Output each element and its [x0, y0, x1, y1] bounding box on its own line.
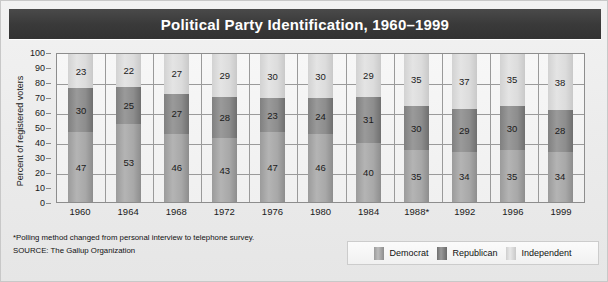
legend-item-democrat[interactable]: Democrat — [374, 247, 428, 260]
x-axis-tick-label: 1976 — [248, 204, 296, 220]
bar-segment-republican: 30 — [404, 106, 429, 150]
y-axis-tick-mark — [46, 203, 51, 204]
bar-segment-independent: 35 — [500, 54, 525, 106]
bar-category-1984: 293140 — [344, 54, 392, 202]
bar-category-1999: 382834 — [536, 54, 584, 202]
bar-value-label: 30 — [411, 123, 422, 134]
bar-value-label: 34 — [555, 171, 566, 182]
bar-value-label: 30 — [267, 71, 278, 82]
y-axis-tick-label: 60 — [35, 108, 45, 118]
bar-category-1972: 292843 — [201, 54, 249, 202]
y-axis-tick-mark — [46, 143, 51, 144]
bar-value-label: 23 — [76, 66, 87, 77]
bar-value-label: 23 — [267, 110, 278, 121]
y-axis-tick-mark — [46, 113, 51, 114]
bar-segment-republican: 23 — [260, 98, 285, 132]
stacked-bar: 272746 — [164, 54, 189, 202]
bar-value-label: 40 — [363, 167, 374, 178]
bar-value-label: 22 — [124, 65, 135, 76]
bar-segment-independent: 37 — [452, 54, 477, 109]
bar-segment-democrat: 34 — [548, 152, 573, 202]
bar-segment-democrat: 53 — [116, 124, 141, 202]
bar-category-1992: 372934 — [440, 54, 488, 202]
bar-value-label: 29 — [219, 70, 230, 81]
x-axis-tick-label: 1996 — [489, 204, 537, 220]
legend-item-independent[interactable]: Independent — [506, 247, 571, 260]
stacked-bar: 222553 — [116, 54, 141, 202]
y-axis-tick-mark — [46, 173, 51, 174]
bar-segment-republican: 30 — [68, 88, 93, 132]
x-axis-tick-label: 1992 — [441, 204, 489, 220]
legend-label: Independent — [521, 248, 571, 258]
bar-category-1976: 302347 — [249, 54, 297, 202]
bar-segment-republican: 27 — [164, 94, 189, 134]
bar-category-1988: 353035 — [392, 54, 440, 202]
y-axis-tick-mark — [46, 98, 51, 99]
bar-value-label: 34 — [459, 171, 470, 182]
y-axis-tick-label: 30 — [35, 153, 45, 163]
y-axis-tick-mark — [46, 158, 51, 159]
y-axis-tick-label: 70 — [35, 93, 45, 103]
stacked-bar: 382834 — [548, 54, 573, 202]
y-axis-label-text: Percent of registered voters — [15, 76, 25, 187]
bar-segment-independent: 35 — [404, 54, 429, 106]
bar-segment-independent: 23 — [68, 54, 93, 88]
stacked-bar: 353035 — [500, 54, 525, 202]
bar-value-label: 28 — [219, 112, 230, 123]
legend-label: Democrat — [389, 248, 428, 258]
y-axis-tick-label: 90 — [35, 63, 45, 73]
stacked-bar: 302347 — [260, 54, 285, 202]
bar-segment-democrat: 35 — [404, 150, 429, 202]
y-axis-tick-label: 80 — [35, 78, 45, 88]
bar-segment-republican: 31 — [356, 97, 381, 143]
bar-value-label: 35 — [411, 74, 422, 85]
x-axis-tick-label: 1984 — [345, 204, 393, 220]
bar-value-label: 27 — [171, 68, 182, 79]
bar-value-label: 30 — [315, 71, 326, 82]
bar-value-label: 29 — [459, 125, 470, 136]
x-axis-ticks: 19601964196819721976198019841988*1992199… — [56, 204, 585, 220]
bar-category-1968: 272746 — [153, 54, 201, 202]
page-title: Political Party Identification, 1960–199… — [161, 16, 449, 33]
bar-segment-republican: 29 — [452, 109, 477, 152]
bar-value-label: 53 — [124, 157, 135, 168]
bar-value-label: 43 — [219, 165, 230, 176]
legend-swatch-icon — [506, 247, 516, 260]
chart-title-bar: Political Party Identification, 1960–199… — [9, 9, 601, 39]
stacked-bar: 302446 — [308, 54, 333, 202]
y-axis-tick-mark — [46, 68, 51, 69]
y-axis-tick-label: 10 — [35, 183, 45, 193]
bar-segment-democrat: 35 — [500, 150, 525, 202]
bar-segment-independent: 29 — [356, 54, 381, 97]
legend-swatch-icon — [437, 247, 447, 260]
plot-area: 2330472225532727462928433023473024462931… — [56, 53, 585, 203]
bar-value-label: 47 — [267, 162, 278, 173]
y-axis-tick-mark — [46, 83, 51, 84]
y-axis-tick-mark — [46, 128, 51, 129]
footnote-text: *Polling method changed from personal in… — [13, 231, 343, 244]
bar-segment-republican: 28 — [548, 110, 573, 151]
bar-segment-independent: 22 — [116, 54, 141, 87]
x-axis-tick-label: 1972 — [200, 204, 248, 220]
y-axis-label: Percent of registered voters — [13, 57, 27, 205]
bar-category-1996: 353035 — [488, 54, 536, 202]
bar-segment-independent: 27 — [164, 54, 189, 94]
bar-value-label: 25 — [124, 100, 135, 111]
y-axis-tick-label: 20 — [35, 168, 45, 178]
bar-segment-democrat: 46 — [164, 134, 189, 202]
bar-category-1980: 302446 — [297, 54, 345, 202]
bar-value-label: 31 — [363, 114, 374, 125]
y-axis-tick-label: 50 — [35, 123, 45, 133]
legend-item-republican[interactable]: Republican — [437, 247, 497, 260]
bar-value-label: 38 — [555, 77, 566, 88]
bar-segment-republican: 30 — [500, 106, 525, 150]
bar-segment-democrat: 40 — [356, 143, 381, 202]
bar-group: 2330472225532727462928433023473024462931… — [57, 54, 584, 202]
bar-category-1964: 222553 — [105, 54, 153, 202]
chart-notes: *Polling method changed from personal in… — [13, 231, 343, 257]
bar-segment-republican: 24 — [308, 98, 333, 134]
bar-segment-independent: 30 — [308, 54, 333, 98]
stacked-bar: 372934 — [452, 54, 477, 202]
bar-segment-democrat: 43 — [212, 138, 237, 202]
y-axis-tick-mark — [46, 188, 51, 189]
